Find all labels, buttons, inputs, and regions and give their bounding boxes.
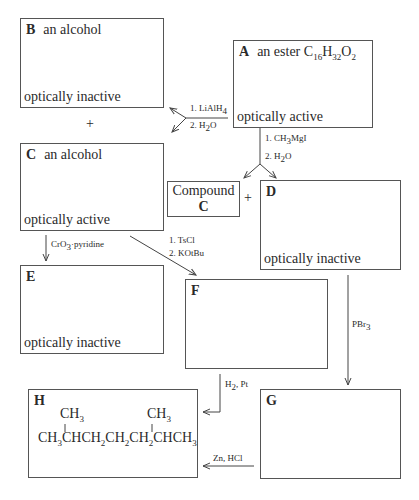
reagent-pbr3: PBr3 [352, 318, 371, 334]
reagent-oxidation: CrO3·pyridine [51, 238, 104, 254]
box-a-letter: A [239, 44, 249, 59]
plus-sign-bc: + [86, 116, 94, 132]
box-g-letter: G [266, 393, 277, 408]
box-g-header: G [266, 393, 285, 409]
box-compound-c: Compound C [167, 181, 240, 217]
compound-c-label: Compound [168, 183, 239, 199]
box-g: G [260, 389, 401, 479]
reagent-elimination: 1. TsCl 2. KOtBu [169, 234, 204, 260]
box-e: E optically inactive [20, 265, 164, 354]
box-e-note: optically inactive [24, 335, 121, 351]
plus-sign-cd: + [244, 190, 252, 206]
box-b: Ban alcohol optically inactive [20, 18, 164, 108]
box-d: D optically inactive [260, 180, 401, 270]
box-a: Aan ester C16H32O2 optically active [233, 40, 373, 128]
structure-main-chain: CH3CHCH2CH2CH2CHCH3 [38, 430, 197, 448]
box-c-header: Can alcohol [26, 147, 102, 163]
box-e-header: E [26, 269, 43, 285]
box-b-letter: B [26, 22, 35, 37]
reagent-reduction: Zn, HCl [213, 452, 243, 465]
box-f-letter: F [191, 283, 200, 298]
box-d-letter: D [266, 184, 276, 199]
box-f-header: F [191, 283, 208, 299]
compound-c-letter: C [168, 199, 239, 215]
box-d-header: D [266, 184, 284, 200]
box-f: F [185, 279, 328, 369]
box-b-desc: an alcohol [43, 22, 101, 37]
reagent-grignard: 1. CH3MgI 2. H2O [265, 132, 307, 166]
box-c-note: optically active [24, 212, 110, 228]
reagent-lialh4: 1. LiAlH4 2. H2O [190, 102, 227, 135]
box-c-letter: C [26, 147, 36, 162]
box-h: H CH3 CH3 CH3CHCH2CH2CH2CHCH3 [28, 389, 198, 478]
box-e-letter: E [26, 269, 35, 284]
box-b-note: optically inactive [24, 89, 121, 105]
reagent-hydrogenation: H2, Pt [225, 378, 248, 394]
box-c: Can alcohol optically active [20, 143, 164, 231]
box-a-note: optically active [237, 109, 323, 125]
box-a-desc: an ester [257, 44, 300, 59]
box-c-desc: an alcohol [44, 147, 102, 162]
box-a-formula: C16H32O2 [304, 44, 356, 59]
box-a-header: Aan ester C16H32O2 [239, 44, 356, 62]
box-b-header: Ban alcohol [26, 22, 101, 38]
box-d-note: optically inactive [264, 251, 361, 267]
